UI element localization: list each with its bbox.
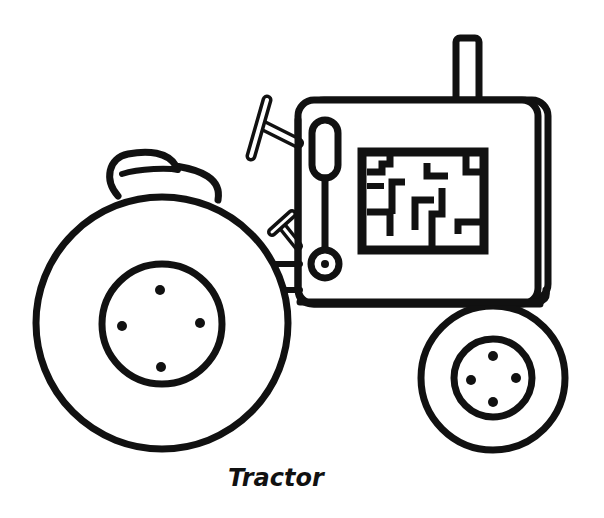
tractor-drawing bbox=[0, 0, 604, 518]
coloring-page: Tractor bbox=[0, 0, 604, 518]
caption-label: Tractor bbox=[228, 464, 324, 492]
maze-grille bbox=[362, 152, 484, 250]
exhaust-pipe bbox=[456, 38, 479, 102]
seat bbox=[110, 152, 219, 200]
steering-wheel bbox=[251, 100, 298, 156]
rear-wheel bbox=[36, 197, 288, 449]
front-wheel bbox=[421, 306, 565, 450]
gear-lever bbox=[272, 214, 298, 246]
